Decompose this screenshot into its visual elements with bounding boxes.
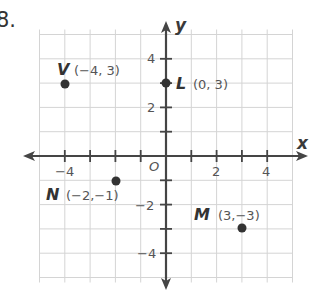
y-tick-label-neg2: −2 [135, 198, 154, 213]
point-coords: (0, 3) [193, 77, 228, 92]
x-tick-label-neg4: −4 [55, 164, 74, 179]
point-marker [162, 79, 171, 88]
point-marker [238, 224, 247, 233]
coordinate-plane: y x O −4 2 4 4 2 −2 −4 V (−4, 3) L (0, 3… [0, 0, 317, 296]
x-tick-label-4: 4 [262, 164, 270, 179]
point-coords: (−2,−1) [66, 188, 119, 203]
point-name: V [57, 60, 71, 79]
point-marker [61, 80, 70, 89]
point-name: N [46, 185, 60, 204]
x-axis-label: x [296, 133, 309, 153]
x-tick-label-2: 2 [212, 164, 220, 179]
y-tick-label-4: 4 [147, 51, 155, 66]
point-name: L [176, 74, 186, 93]
point-coords: (−4, 3) [74, 63, 120, 78]
y-tick-label-2: 2 [147, 100, 155, 115]
point-marker [112, 177, 121, 186]
y-axis-label: y [175, 15, 187, 35]
point-coords: (3,−3) [218, 208, 260, 223]
y-tick-label-neg4: −4 [137, 246, 156, 261]
origin-label: O [149, 159, 159, 174]
point-name: M [194, 205, 210, 224]
coordinate-plane-figure: 8. [0, 0, 317, 296]
point-V: V (−4, 3) [57, 60, 120, 89]
point-M: M (3,−3) [194, 205, 260, 233]
